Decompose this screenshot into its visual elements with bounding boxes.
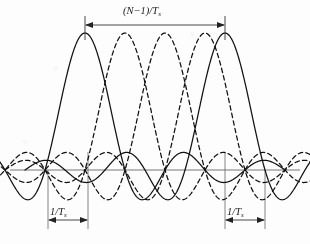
dimension-spacing-left-arrowhead-right xyxy=(80,217,88,223)
dimension-spacing-right xyxy=(225,217,265,223)
label-spacing-right-numerator: 1/ xyxy=(227,206,235,217)
label-total-bandwidth: (N−1)/Ts xyxy=(123,5,161,16)
dimension-bandwidth-arrowhead-left xyxy=(85,22,93,28)
label-bandwidth-n: N xyxy=(127,5,134,16)
sinc-curve-subcarrier-5 xyxy=(25,33,310,200)
label-bandwidth-subscript: s xyxy=(158,10,161,18)
dimension-spacing-left-arrowhead-left xyxy=(48,217,56,223)
label-spacing-left-numerator: 1/ xyxy=(50,206,58,217)
subcarrier-family xyxy=(0,33,310,200)
sinc-curve-subcarrier-3 xyxy=(0,33,310,200)
subcarrier-spectrum-plot xyxy=(0,0,310,244)
label-spacing-left-subscript: s xyxy=(64,211,67,219)
dimension-bandwidth-arrowhead-right xyxy=(217,22,225,28)
dimension-spacing-right-arrowhead-left xyxy=(225,217,233,223)
dimension-bandwidth xyxy=(85,16,225,40)
dimension-spacing-right-arrowhead-right xyxy=(257,217,265,223)
figure-container: (N−1)/Ts 1/Ts 1/Ts xyxy=(0,0,310,244)
label-subcarrier-spacing-right: 1/Ts xyxy=(227,206,244,217)
label-bandwidth-minus-one: −1 xyxy=(134,5,146,16)
label-spacing-right-subscript: s xyxy=(241,211,244,219)
sinc-curve-subcarrier-4 xyxy=(5,33,310,200)
sinc-curve-subcarrier-2 xyxy=(0,33,310,200)
label-subcarrier-spacing-left: 1/Ts xyxy=(50,206,67,217)
dimension-spacing-left xyxy=(48,217,88,223)
